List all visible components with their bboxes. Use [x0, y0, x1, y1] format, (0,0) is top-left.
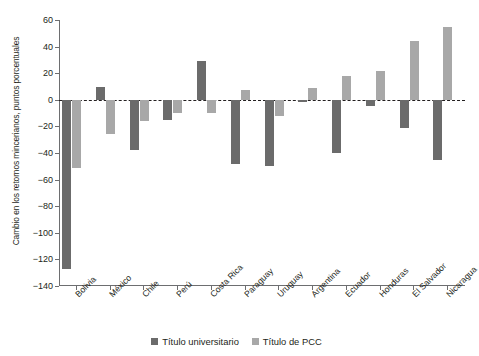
- bar-group: [94, 20, 128, 286]
- chart-legend: Título universitarioTítulo de PCC: [0, 336, 473, 347]
- y-tick-label: −100: [33, 228, 53, 238]
- bar: [96, 87, 105, 100]
- y-tick: [55, 20, 59, 21]
- y-tick: [55, 233, 59, 234]
- y-tick: [55, 153, 59, 154]
- bar-group: [195, 20, 229, 286]
- y-tick: [55, 286, 59, 287]
- bar: [106, 100, 115, 135]
- bar: [366, 100, 375, 107]
- bar: [197, 61, 206, 100]
- bar-group: [398, 20, 432, 286]
- y-tick-label: −120: [33, 254, 53, 264]
- bar: [62, 100, 71, 269]
- bar: [130, 100, 139, 151]
- bar: [376, 71, 385, 100]
- legend-label: Título universitario: [162, 336, 239, 347]
- legend-item: Título universitario: [151, 336, 239, 347]
- bar-group: [60, 20, 94, 286]
- y-tick: [55, 180, 59, 181]
- bar: [275, 100, 284, 116]
- bar: [298, 100, 307, 103]
- bar-group: [161, 20, 195, 286]
- bar: [72, 100, 81, 168]
- y-tick: [55, 126, 59, 127]
- legend-item: Título de PCC: [252, 336, 322, 347]
- y-tick-label: −60: [38, 175, 53, 185]
- legend-swatch: [151, 338, 158, 345]
- y-tick: [55, 259, 59, 260]
- bar-group: [263, 20, 297, 286]
- bar-group: [364, 20, 398, 286]
- y-tick: [55, 47, 59, 48]
- bar-groups: [60, 20, 465, 286]
- bar: [332, 100, 341, 153]
- bar-group: [296, 20, 330, 286]
- bar: [308, 88, 317, 100]
- bar: [410, 41, 419, 100]
- bar: [173, 100, 182, 113]
- bar: [433, 100, 442, 160]
- bar: [140, 100, 149, 121]
- bar-group: [431, 20, 465, 286]
- legend-swatch: [252, 338, 259, 345]
- y-tick-label: 60: [43, 15, 53, 25]
- bar: [265, 100, 274, 167]
- bar: [163, 100, 172, 120]
- y-tick-label: 0: [48, 95, 53, 105]
- bar: [443, 27, 452, 100]
- y-axis-title: Cambio en los retornos mincerianos, punt…: [9, 0, 23, 286]
- bar-group: [229, 20, 263, 286]
- y-tick-label: −80: [38, 201, 53, 211]
- y-tick-label: 20: [43, 68, 53, 78]
- legend-label: Título de PCC: [263, 336, 322, 347]
- bar-group: [128, 20, 162, 286]
- y-tick-label: −40: [38, 148, 53, 158]
- y-tick-label: 40: [43, 42, 53, 52]
- y-tick: [55, 73, 59, 74]
- bar-group: [330, 20, 364, 286]
- bar: [400, 100, 409, 128]
- bar: [241, 90, 250, 99]
- bar: [342, 76, 351, 100]
- bar: [231, 100, 240, 164]
- y-tick: [55, 206, 59, 207]
- bar: [207, 100, 216, 113]
- y-tick-label: −20: [38, 121, 53, 131]
- plot-area: 6040200−20−40−60−80−100−120−140: [59, 20, 465, 286]
- y-tick-label: −140: [33, 281, 53, 291]
